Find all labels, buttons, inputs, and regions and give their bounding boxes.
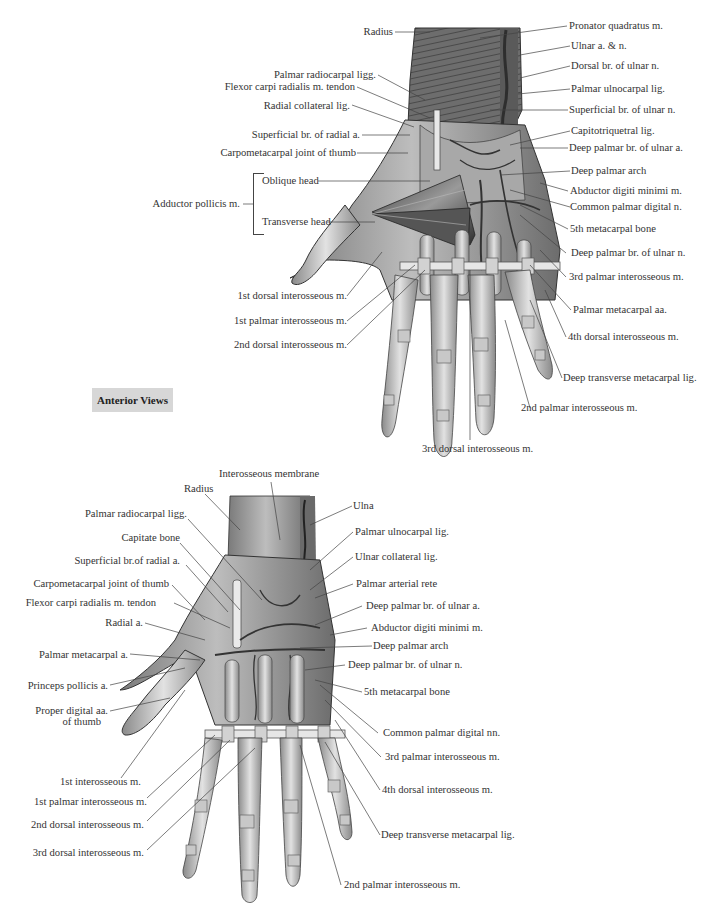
label-5th-metacarpal-bone: 5th metacarpal bone xyxy=(570,223,656,235)
label-transverse-head: Transverse head xyxy=(262,216,331,228)
label-1st-interosseous: 1st interosseous m. xyxy=(60,776,141,788)
label-deep-transverse-metacarpal-lig: Deep transverse metacarpal lig. xyxy=(563,372,697,384)
label-adductor-pollicis: Adductor pollicis m. xyxy=(153,198,240,210)
label-deep-palmar-arch: Deep palmar arch xyxy=(571,165,646,177)
label-palmar-radiocarpal-ligg: Palmar radiocarpal ligg. xyxy=(85,508,187,520)
label-5th-metacarpal-bone: 5th metacarpal bone xyxy=(364,686,450,698)
label-ulna: Ulna xyxy=(353,500,374,512)
label-3rd-palmar-interosseous: 3rd palmar interosseous m. xyxy=(569,271,684,283)
label-oblique-head: Oblique head xyxy=(262,175,319,187)
label-ulnar-a-n: Ulnar a. & n. xyxy=(571,40,627,52)
label-1st-dorsal-interosseous: 1st dorsal interosseous m. xyxy=(238,290,347,302)
label-pronator-quadratus: Pronator quadratus m. xyxy=(569,20,663,32)
label-abductor-digiti-minimi: Abductor digiti minimi m. xyxy=(570,185,682,197)
label-radial-a: Radial a. xyxy=(105,617,143,629)
label-carpometacarpal-joint-thumb: Carpometacarpal joint of thumb xyxy=(220,147,356,159)
label-3rd-dorsal-interosseous: 3rd dorsal interosseous m. xyxy=(33,847,144,859)
label-capitate-bone: Capitate bone xyxy=(121,532,180,544)
label-deep-transverse-metacarpal-lig: Deep transverse metacarpal lig. xyxy=(381,829,515,841)
label-interosseous-membrane: Interosseous membrane xyxy=(219,468,319,480)
label-carpometacarpal-joint-thumb: Carpometacarpal joint of thumb xyxy=(33,578,169,590)
label-dorsal-br-ulnar-n: Dorsal br. of ulnar n. xyxy=(571,60,659,72)
label-palmar-arterial-rete: Palmar arterial rete xyxy=(356,578,437,590)
label-superficial-br-radial-a: Superficial br.of radial a. xyxy=(74,555,180,567)
label-2nd-dorsal-interosseous: 2nd dorsal interosseous m. xyxy=(31,819,144,831)
label-1st-palmar-interosseous: 1st palmar interosseous m. xyxy=(234,315,347,327)
label-proper-digital-aa-line2: of thumb xyxy=(62,716,101,728)
label-abductor-digiti-minimi: Abductor digiti minimi m. xyxy=(371,622,483,634)
label-flexor-carpi-radialis-tendon: Flexor carpi radialis m. tendon xyxy=(26,597,156,609)
label-deep-palmar-arch: Deep palmar arch xyxy=(373,640,448,652)
label-common-palmar-digital-nn: Common palmar digital nn. xyxy=(383,727,500,739)
label-palmar-radiocarpal-ligg: Palmar radiocarpal ligg. xyxy=(274,69,376,81)
label-palmar-ulnocarpal-lig: Palmar ulnocarpal lig. xyxy=(571,83,665,95)
label-ulnar-collateral-lig: Ulnar collateral lig. xyxy=(355,551,438,563)
label-4th-dorsal-interosseous: 4th dorsal interosseous m. xyxy=(568,331,679,343)
anatomy-figure: Radius Palmar radiocarpal ligg. Flexor c… xyxy=(0,0,713,924)
label-palmar-ulnocarpal-lig: Palmar ulnocarpal lig. xyxy=(355,526,449,538)
label-2nd-dorsal-interosseous: 2nd dorsal interosseous m. xyxy=(234,339,347,351)
label-4th-dorsal-interosseous: 4th dorsal interosseous m. xyxy=(382,784,493,796)
label-1st-palmar-interosseous: 1st palmar interosseous m. xyxy=(34,796,147,808)
label-3rd-palmar-interosseous: 3rd palmar interosseous m. xyxy=(385,751,500,763)
label-capitotriquetral-lig: Capitotriquetral lig. xyxy=(571,125,655,137)
label-deep-palmar-br-ulnar-n: Deep palmar br. of ulnar n. xyxy=(348,659,462,671)
label-palmar-metacarpal-a: Palmar metacarpal a. xyxy=(39,649,128,661)
label-radius: Radius xyxy=(184,483,213,495)
label-radial-collateral-lig: Radial collateral lig. xyxy=(264,100,350,112)
label-2nd-palmar-interosseous: 2nd palmar interosseous m. xyxy=(344,879,461,891)
label-superficial-br-ulnar-n: Superficial br. of ulnar n. xyxy=(569,104,676,116)
label-superficial-br-radial-a: Superficial br. of radial a. xyxy=(252,129,360,141)
label-palmar-metacarpal-aa: Palmar metacarpal aa. xyxy=(573,304,667,316)
label-deep-palmar-br-ulnar-n: Deep palmar br. of ulnar n. xyxy=(571,247,685,259)
label-radius: Radius xyxy=(364,26,393,38)
label-flexor-carpi-radialis-tendon: Flexor carpi radialis m. tendon xyxy=(225,81,355,93)
view-badge: Anterior Views xyxy=(92,388,173,412)
label-2nd-palmar-interosseous: 2nd palmar interosseous m. xyxy=(521,402,638,414)
label-deep-palmar-br-ulnar-a: Deep palmar br. of ulnar a. xyxy=(569,142,683,154)
label-princeps-pollicis-a: Princeps pollicis a. xyxy=(28,680,108,692)
label-3rd-dorsal-interosseous: 3rd dorsal interosseous m. xyxy=(422,443,533,455)
label-deep-palmar-br-ulnar-a: Deep palmar br. of ulnar a. xyxy=(366,600,480,612)
label-common-palmar-digital-n: Common palmar digital n. xyxy=(570,201,682,213)
